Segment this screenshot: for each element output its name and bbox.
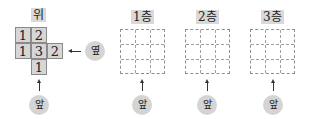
front-arrow-icon — [39, 82, 40, 91]
floor-2-label: 2층 — [196, 10, 219, 24]
cell-r1-c0: 1 — [15, 43, 31, 59]
floor-1-front-arrow-icon — [142, 82, 143, 91]
cell-r0-c1: 2 — [31, 27, 47, 43]
floor-1-front-label: 앞 — [132, 95, 152, 115]
side-arrow-icon — [71, 51, 81, 52]
side-label: 옆 — [85, 41, 105, 61]
floor-3-front-label: 앞 — [263, 95, 283, 115]
floor-2-grid[interactable] — [185, 29, 230, 74]
cell-r1-c1: 3 — [31, 43, 47, 59]
floor-3-label: 3층 — [261, 10, 284, 24]
floor-2-front-label: 앞 — [197, 95, 217, 115]
floor-2-front-arrow-icon — [207, 82, 208, 91]
cell-r0-c0: 1 — [15, 27, 31, 43]
floor-3-front-arrow-icon — [273, 82, 274, 91]
floor-1-label: 1층 — [131, 10, 154, 24]
cell-r1-c2: 2 — [47, 43, 63, 59]
cell-r2-c1: 1 — [31, 59, 47, 75]
floor-1-grid[interactable] — [120, 29, 165, 74]
top-view-label: 위 — [31, 8, 46, 22]
floor-3-grid[interactable] — [250, 29, 295, 74]
front-label: 앞 — [29, 95, 49, 115]
